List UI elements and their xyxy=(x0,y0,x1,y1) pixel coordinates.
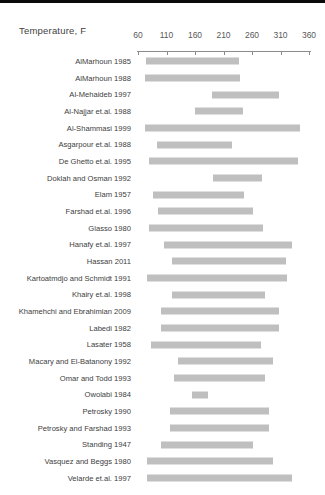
chart-row: Khairy et.al. 1998 xyxy=(0,286,325,303)
row-plot-area xyxy=(138,436,309,453)
row-plot-area xyxy=(138,353,309,370)
chart-row: Owolabi 1984 xyxy=(0,386,325,403)
range-bar xyxy=(164,241,292,248)
chart-row: Al-Mehaideb 1997 xyxy=(0,86,325,103)
chart-row: Elam 1957 xyxy=(0,186,325,203)
row-plot-area xyxy=(138,103,309,120)
chart-row: Khamehchi and Ebrahimian 2009 xyxy=(0,303,325,320)
chart-row: Asgarpour et.al. 1988 xyxy=(0,136,325,153)
row-plot-area xyxy=(138,336,309,353)
row-plot-area xyxy=(138,53,309,70)
category-label: Al-Najjar et.al. 1988 xyxy=(0,107,138,116)
chart-row: AlMarhoun 1985 xyxy=(0,53,325,70)
category-label: Al-Shammasi 1999 xyxy=(0,124,138,133)
chart-row: Petrosky and Farshad 1993 xyxy=(0,420,325,437)
category-label: Kartoatmdjo and Schmidt 1991 xyxy=(0,274,138,283)
chart-row: Kartoatmdjo and Schmidt 1991 xyxy=(0,270,325,287)
row-plot-area xyxy=(138,386,309,403)
x-axis-tick-label: 310 xyxy=(273,30,287,40)
category-label: Hassan 2011 xyxy=(0,257,138,266)
category-label: Omar and Todd 1993 xyxy=(0,374,138,383)
category-label: Lasater 1958 xyxy=(0,340,138,349)
window-edge-bar xyxy=(0,0,325,3)
category-label: Petrosky 1990 xyxy=(0,407,138,416)
row-plot-area xyxy=(138,470,309,487)
chart-title: Temperature, F xyxy=(19,25,86,36)
range-bar xyxy=(172,291,265,298)
range-bar xyxy=(147,275,287,282)
chart-row: Vasquez and Beggs 1980 xyxy=(0,453,325,470)
row-plot-area xyxy=(138,86,309,103)
chart-row: Farshad et.al. 1996 xyxy=(0,203,325,220)
category-label: AlMarhoun 1985 xyxy=(0,57,138,66)
row-plot-area xyxy=(138,153,309,170)
row-plot-area xyxy=(138,403,309,420)
range-bar xyxy=(170,408,269,415)
range-bar xyxy=(149,225,263,232)
x-axis-tick-label: 360 xyxy=(302,30,316,40)
category-label: Velarde et.al. 1997 xyxy=(0,474,138,483)
chart-row: Glasso 1980 xyxy=(0,220,325,237)
row-plot-area xyxy=(138,203,309,220)
row-plot-area xyxy=(138,70,309,87)
row-plot-area xyxy=(138,286,309,303)
range-bar xyxy=(170,425,269,432)
chart-row: Hassan 2011 xyxy=(0,253,325,270)
chart-figure: Temperature, F 60110160210260310360 AlMa… xyxy=(0,0,325,495)
chart-row: Petrosky 1990 xyxy=(0,403,325,420)
x-axis-tick-label: 60 xyxy=(133,30,142,40)
chart-row: Omar and Todd 1993 xyxy=(0,370,325,387)
range-bar xyxy=(157,141,232,148)
range-bar xyxy=(192,391,208,398)
category-label: Farshad et.al. 1996 xyxy=(0,207,138,216)
range-bar xyxy=(178,358,273,365)
category-label: Hanafy et.al. 1997 xyxy=(0,240,138,249)
category-label: Elam 1957 xyxy=(0,190,138,199)
row-plot-area xyxy=(138,170,309,187)
range-bar xyxy=(145,125,300,132)
range-bar xyxy=(147,458,273,465)
row-plot-area xyxy=(138,220,309,237)
x-axis-tick-labels: 60110160210260310360 xyxy=(138,30,309,41)
x-axis-tick-label: 260 xyxy=(245,30,259,40)
range-bar xyxy=(147,475,292,482)
range-bar xyxy=(158,208,253,215)
range-bar xyxy=(174,375,265,382)
chart-row: Labedi 1982 xyxy=(0,320,325,337)
row-plot-area xyxy=(138,186,309,203)
range-bar xyxy=(145,75,240,82)
row-plot-area xyxy=(138,370,309,387)
category-label: Al-Mehaideb 1997 xyxy=(0,90,138,99)
row-plot-area xyxy=(138,253,309,270)
category-label: De Ghetto et.al. 1995 xyxy=(0,157,138,166)
row-plot-area xyxy=(138,236,309,253)
row-plot-area xyxy=(138,270,309,287)
row-plot-area xyxy=(138,320,309,337)
range-bar xyxy=(149,158,298,165)
range-bar xyxy=(161,308,279,315)
category-label: AlMarhoun 1988 xyxy=(0,74,138,83)
category-label: Khairy et.al. 1998 xyxy=(0,290,138,299)
category-label: Vasquez and Beggs 1980 xyxy=(0,457,138,466)
range-bar xyxy=(153,191,244,198)
x-axis-tick-label: 160 xyxy=(188,30,202,40)
range-bar xyxy=(195,108,243,115)
row-plot-area xyxy=(138,303,309,320)
chart-row: Doklah and Osman 1992 xyxy=(0,170,325,187)
chart-row: Lasater 1958 xyxy=(0,336,325,353)
chart-row: Velarde et.al. 1997 xyxy=(0,470,325,487)
category-label: Doklah and Osman 1992 xyxy=(0,174,138,183)
range-bar xyxy=(213,175,262,182)
row-plot-area xyxy=(138,453,309,470)
row-plot-area xyxy=(138,136,309,153)
x-axis-tick-label: 210 xyxy=(216,30,230,40)
category-label: Standing 1947 xyxy=(0,440,138,449)
range-bar xyxy=(161,325,279,332)
category-label: Macary and El-Batanony 1992 xyxy=(0,357,138,366)
range-bar xyxy=(161,441,253,448)
range-bar xyxy=(151,341,261,348)
category-label: Asgarpour et.al. 1988 xyxy=(0,140,138,149)
category-label: Petrosky and Farshad 1993 xyxy=(0,424,138,433)
chart-row: Hanafy et.al. 1997 xyxy=(0,236,325,253)
chart-row: De Ghetto et.al. 1995 xyxy=(0,153,325,170)
